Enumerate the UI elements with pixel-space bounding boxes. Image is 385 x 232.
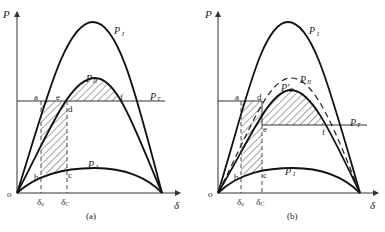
label-p1-b: PI — [308, 25, 320, 37]
tick-deltaC-a: δC — [61, 197, 70, 207]
point-b-b: b — [234, 172, 239, 182]
point-d-a: d — [68, 104, 73, 114]
label-p2-prime-b: P′II — [280, 82, 294, 93]
x-axis-label-a: δ — [174, 199, 180, 211]
tick-delta0-b: δ0 — [237, 197, 244, 207]
point-e-a: e — [56, 92, 60, 102]
y-axis-label-b: P — [204, 8, 212, 20]
caption-b: (b) — [287, 211, 298, 221]
origin-label-b: o — [208, 189, 213, 199]
y-axis-label-a: P — [2, 8, 10, 20]
label-p2-a: PII — [85, 73, 98, 84]
point-c-b: c — [263, 170, 267, 180]
curve-p3-a — [17, 168, 162, 193]
label-p2-b: PII — [299, 74, 312, 85]
x-axis-label-b: δ — [370, 199, 376, 211]
panel-a: P δ o PI PII PI PT a e d f b c δ0 δC (a) — [2, 8, 180, 221]
label-pt-b: PT — [349, 117, 361, 128]
point-f-a: f — [120, 92, 123, 102]
point-e-b: e — [263, 124, 267, 134]
tick-deltaC-b: δC — [256, 197, 265, 207]
point-a-b: a — [235, 92, 239, 102]
point-b-a: b — [34, 172, 39, 182]
point-c-a: c — [68, 170, 72, 180]
origin-label-a: o — [7, 189, 12, 199]
panel-b: P δ o PI PII P′II PI PT a d e f b c δ0 δ… — [204, 8, 378, 221]
point-f-b: f — [322, 127, 325, 137]
label-p3-a: PI — [87, 159, 99, 170]
point-a-a: a — [34, 92, 38, 102]
tick-delta0-a: δ0 — [37, 197, 44, 207]
point-d-b: d — [257, 92, 262, 102]
equal-area-diagram: P δ o PI PII PI PT a e d f b c δ0 δC (a) — [0, 0, 385, 232]
caption-a: (a) — [86, 211, 96, 221]
label-pt-a: PT — [149, 91, 161, 102]
label-p1-a: PI — [113, 25, 125, 37]
